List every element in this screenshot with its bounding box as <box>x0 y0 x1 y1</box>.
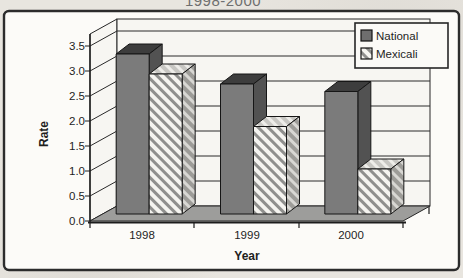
y-tick-label: 0.0 <box>69 215 85 227</box>
chart-svg: 1998-2000 3.5 3.0 2.5 2.0 1.5 1.0 0.5 0.… <box>0 0 463 278</box>
y-tick-label: 3.0 <box>69 65 85 77</box>
y-tick-label: 0.5 <box>69 190 85 202</box>
x-axis-title: Year <box>234 249 260 263</box>
legend-label-mexicali: Mexicali <box>376 48 418 60</box>
y-tick-label: 2.0 <box>69 115 85 127</box>
bar-face <box>182 64 195 214</box>
bar-face <box>358 169 391 214</box>
y-tick-label: 1.5 <box>69 140 85 152</box>
y-axis-title: Rate <box>37 121 51 147</box>
legend: National Mexicali <box>355 23 448 68</box>
legend-label-national: National <box>376 30 418 42</box>
mexicali-swatch-icon <box>361 48 372 59</box>
bar-mexicali-1998 <box>149 64 195 214</box>
national-swatch-icon <box>361 30 372 41</box>
bar-face <box>391 159 404 214</box>
bar-face <box>116 54 149 214</box>
chart-title-fragment: 1998-2000 <box>185 0 261 9</box>
category-label-2000: 2000 <box>338 229 364 241</box>
category-label-1999: 1999 <box>234 229 260 241</box>
bar-face <box>325 92 358 215</box>
bar-mexicali-1999 <box>254 117 300 215</box>
y-tick-label: 1.0 <box>69 165 85 177</box>
scanned-chart-figure: 1998-2000 3.5 3.0 2.5 2.0 1.5 1.0 0.5 0.… <box>0 0 463 278</box>
plot-side-wall <box>90 19 117 221</box>
y-tick-label: 3.5 <box>69 40 85 52</box>
y-tick-label: 2.5 <box>69 90 85 102</box>
bar-face <box>221 84 254 214</box>
bar-face <box>254 127 287 215</box>
bar-mexicali-2000 <box>358 159 404 214</box>
bar-face <box>287 117 300 215</box>
category-label-1998: 1998 <box>129 229 155 241</box>
bar-face <box>149 74 182 214</box>
